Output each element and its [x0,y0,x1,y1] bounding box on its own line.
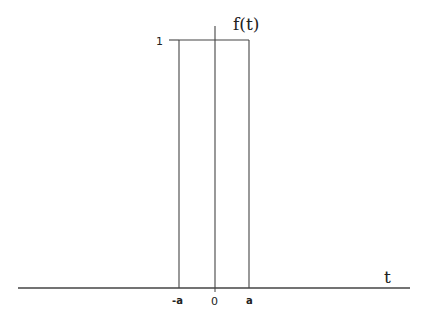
x-tick-label-pos-a: a [246,295,253,306]
t-axis-label: t [384,267,391,287]
pulse-diagram: f(t) 1 t -a 0 a [0,0,427,315]
x-tick-label-neg-a: -a [172,295,183,306]
y-tick-label: 1 [156,35,163,48]
function-label: f(t) [233,14,259,34]
diagram-svg: f(t) 1 t -a 0 a [0,0,427,315]
x-tick-label-zero: 0 [211,295,218,308]
